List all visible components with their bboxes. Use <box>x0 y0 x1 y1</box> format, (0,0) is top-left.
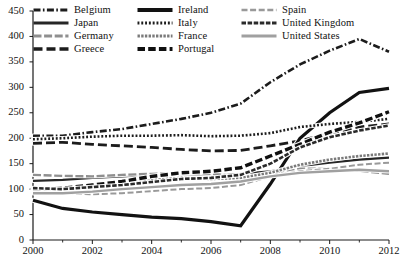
legend-label: Belgium <box>74 4 111 15</box>
y-tick-450: 450 <box>2 6 24 16</box>
legend-item-spain[interactable]: Spain <box>241 3 354 16</box>
dash-thin-light-swatch <box>241 5 277 15</box>
legend-item-germany[interactable]: Germany <box>33 29 137 42</box>
legend-item-united-kingdom[interactable]: United Kingdom <box>241 16 354 29</box>
y-tick-300: 300 <box>2 82 24 92</box>
x-tick-2000: 2000 <box>16 246 50 256</box>
x-tick-2002: 2002 <box>75 246 109 256</box>
solid-thin-swatch <box>33 18 69 28</box>
legend-item-portugal[interactable]: Portugal <box>137 42 241 55</box>
x-tick-2010: 2010 <box>313 246 347 256</box>
y-tick-50: 50 <box>2 209 24 219</box>
legend-item-ireland[interactable]: Ireland <box>137 3 241 16</box>
x-tick-2008: 2008 <box>253 246 287 256</box>
y-tick-400: 400 <box>2 31 24 41</box>
dash-dot-swatch <box>33 5 69 15</box>
legend-label: United Kingdom <box>282 17 354 28</box>
legend-label: Greece <box>74 43 104 54</box>
legend-item-japan[interactable]: Japan <box>33 16 137 29</box>
y-tick-200: 200 <box>2 133 24 143</box>
dash-wide-swatch <box>33 44 69 54</box>
legend-item-belgium[interactable]: Belgium <box>33 3 137 16</box>
legend-label: Ireland <box>178 4 208 15</box>
hatched-swatch <box>137 31 173 41</box>
legend-label: United States <box>282 30 340 41</box>
y-tick-100: 100 <box>2 184 24 194</box>
legend-spacer <box>241 42 354 55</box>
x-tick-2006: 2006 <box>194 246 228 256</box>
legend-label: Italy <box>178 17 198 28</box>
chart-legend: BelgiumIrelandSpainJapanItalyUnited King… <box>33 3 333 55</box>
legend-label: France <box>178 30 207 41</box>
y-tick-350: 350 <box>2 56 24 66</box>
y-tick-150: 150 <box>2 158 24 168</box>
y-tick-0: 0 <box>2 235 24 245</box>
dot-dash-dense-swatch <box>241 18 277 28</box>
dotted-swatch <box>137 18 173 28</box>
y-tick-250: 250 <box>2 107 24 117</box>
long-dash-light-swatch <box>33 31 69 41</box>
legend-label: Germany <box>74 30 114 41</box>
solid-thick-swatch <box>137 5 173 15</box>
series-lines <box>33 39 389 226</box>
legend-item-france[interactable]: France <box>137 29 241 42</box>
solid-grey-swatch <box>241 31 277 41</box>
dash-bold-swatch <box>137 44 173 54</box>
legend-label: Japan <box>74 17 98 28</box>
legend-item-united-states[interactable]: United States <box>241 29 354 42</box>
legend-item-italy[interactable]: Italy <box>137 16 241 29</box>
legend-item-greece[interactable]: Greece <box>33 42 137 55</box>
legend-label: Portugal <box>178 43 214 54</box>
x-tick-2012: 2012 <box>372 246 404 256</box>
legend-label: Spain <box>282 4 306 15</box>
x-tick-2004: 2004 <box>135 246 169 256</box>
